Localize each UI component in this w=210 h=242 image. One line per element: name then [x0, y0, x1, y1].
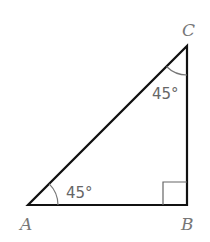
- angle-arc-a: [49, 184, 58, 205]
- right-triangle-diagram: 45° 45° A B C: [0, 0, 210, 242]
- right-angle-marker-b: [163, 182, 187, 205]
- angle-label-c: 45°: [152, 85, 179, 103]
- vertex-label-c: C: [182, 20, 195, 40]
- vertex-label-a: A: [18, 214, 32, 234]
- angle-label-a: 45°: [66, 184, 93, 202]
- triangle-abc: [28, 46, 187, 205]
- angle-arc-c: [167, 67, 188, 76]
- vertex-label-b: B: [180, 214, 194, 234]
